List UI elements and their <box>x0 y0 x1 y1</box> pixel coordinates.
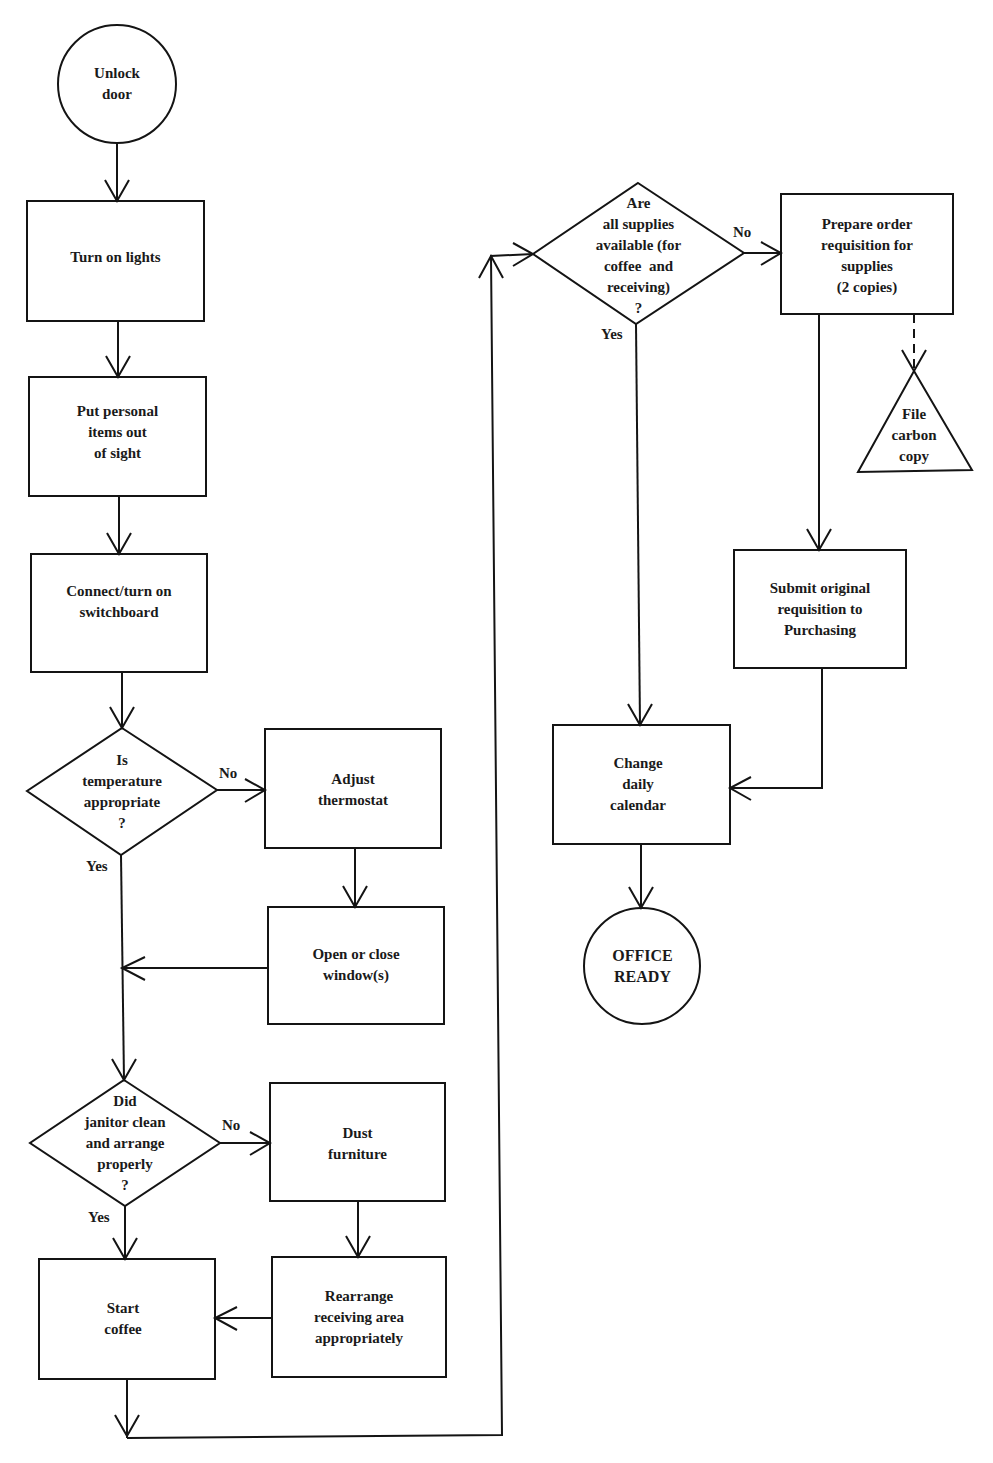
node-label-line: Change <box>613 753 662 774</box>
node-rearrange-receiving: Rearrange receiving area appropriately <box>272 1257 446 1377</box>
node-label-line: thermostat <box>318 790 388 811</box>
node-put-personal-items: Put personal items out of sight <box>29 377 206 487</box>
node-label-line: switchboard <box>79 602 158 623</box>
node-label-line: Is <box>116 750 128 771</box>
node-dust-furniture: Dust furniture <box>270 1083 445 1201</box>
node-label-line: Open or close <box>312 944 399 965</box>
node-label-line: ? <box>635 298 643 319</box>
node-label-line: of sight <box>94 443 141 464</box>
node-label-line: properly <box>97 1154 153 1175</box>
node-label-line: coffee and <box>604 256 673 277</box>
node-label-line: Did <box>113 1091 136 1112</box>
node-label-line: items out <box>88 422 147 443</box>
node-start-coffee: Start coffee <box>39 1259 207 1379</box>
node-label-line: Prepare order <box>822 214 913 235</box>
node-label-line: window(s) <box>323 965 389 986</box>
node-supplies-decision: Are all supplies available (for coffee a… <box>533 193 744 319</box>
node-label-line: File <box>902 404 926 425</box>
node-label-line: ? <box>121 1175 129 1196</box>
node-label-line: (2 copies) <box>837 277 897 298</box>
node-label-line: requisition for <box>821 235 913 256</box>
node-label-line: Purchasing <box>784 620 856 641</box>
node-label-line: receiving) <box>607 277 670 298</box>
node-janitor-decision: Did janitor clean and arrange properly ? <box>30 1090 220 1196</box>
node-label-line: requisition to <box>777 599 862 620</box>
node-prepare-requisition: Prepare order requisition for supplies (… <box>781 194 953 314</box>
node-label-line: Adjust <box>331 769 374 790</box>
node-label-line: Are <box>627 193 651 214</box>
node-label-line: Turn on lights <box>70 247 160 268</box>
node-office-ready: OFFICE READY <box>584 908 701 1024</box>
edge-label-janitor-yes: Yes <box>88 1209 110 1226</box>
node-turn-on-lights: Turn on lights <box>27 201 204 313</box>
node-label-line: janitor clean <box>85 1112 166 1133</box>
node-change-calendar: Change daily calendar <box>553 725 723 844</box>
edge-label-supplies-no: No <box>733 224 751 241</box>
node-label-line: daily <box>622 774 654 795</box>
node-label-line: supplies <box>841 256 893 277</box>
node-label-line: Rearrange <box>325 1286 393 1307</box>
edge-label-temp-no: No <box>219 765 237 782</box>
node-unlock-door: Unlock door <box>58 25 176 143</box>
node-label-line: and arrange <box>86 1133 165 1154</box>
node-label-line: coffee <box>104 1319 141 1340</box>
node-label-line: calendar <box>610 795 666 816</box>
node-label-line: Put personal <box>77 401 158 422</box>
node-label-line: ? <box>118 813 126 834</box>
node-adjust-thermostat: Adjust thermostat <box>265 729 441 849</box>
node-label-line: copy <box>899 446 929 467</box>
node-label-line: OFFICE <box>612 945 672 966</box>
edge-label-janitor-no: No <box>222 1117 240 1134</box>
connectors <box>105 143 926 1438</box>
node-label-line: Submit original <box>770 578 870 599</box>
node-label-line: furniture <box>328 1144 387 1165</box>
node-label-line: temperature <box>82 771 162 792</box>
node-open-close-windows: Open or close window(s) <box>268 907 444 1024</box>
node-label-line: appropriate <box>84 792 160 813</box>
edge-label-supplies-yes: Yes <box>601 326 623 343</box>
node-submit-requisition: Submit original requisition to Purchasin… <box>734 550 906 668</box>
node-file-carbon-copy: File carbon copy <box>858 402 970 468</box>
node-label-line: receiving area <box>314 1307 404 1328</box>
node-label-line: available (for <box>596 235 681 256</box>
node-label-line: all supplies <box>603 214 674 235</box>
edge-label-temp-yes: Yes <box>86 858 108 875</box>
node-temperature-decision: Is temperature appropriate ? <box>27 740 217 844</box>
node-label-line: Unlock <box>94 63 140 84</box>
node-label-line: Start <box>107 1298 140 1319</box>
node-label-line: Connect/turn on <box>66 581 171 602</box>
node-label-line: carbon <box>892 425 937 446</box>
node-label-line: READY <box>614 966 671 987</box>
node-connect-switchboard: Connect/turn on switchboard <box>31 554 207 670</box>
node-label-line: appropriately <box>315 1328 403 1349</box>
node-label-line: Dust <box>342 1123 372 1144</box>
node-label-line: door <box>102 84 132 105</box>
